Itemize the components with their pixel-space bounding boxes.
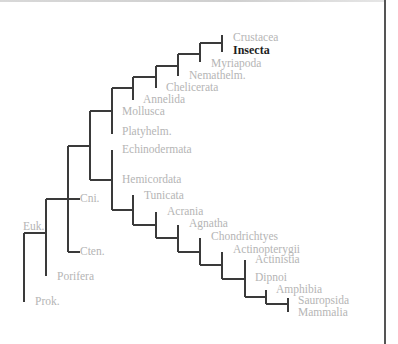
phylogenetic-tree: CrustaceaInsectaMyriapodaNemathelm.Cheli… [0,0,398,344]
taxon-label-acrania: Acrania [167,205,203,217]
taxon-label-platyhelm: Platyhelm. [122,125,172,138]
taxon-label-echinodermata: Echinodermata [122,143,192,155]
taxon-label-hemicordata: Hemicordata [122,173,181,185]
taxon-label-crustacea: Crustacea [233,31,278,43]
taxon-label-actinistia: Actinistia [255,253,300,265]
taxon-label-nemathelm: Nemathelm. [189,69,246,81]
taxon-label-tunicata: Tunicata [144,189,184,201]
phylogenetic-tree-figure: CrustaceaInsectaMyriapodaNemathelm.Cheli… [0,0,398,344]
taxon-label-chondrichtyes: Chondrichtyes [211,230,279,243]
taxon-label-porifera: Porifera [57,270,94,282]
taxon-label-chelicerata: Chelicerata [166,81,218,93]
taxon-label-insecta: Insecta [233,43,270,57]
taxon-label-annelida: Annelida [143,93,185,105]
taxon-label-mammalia: Mammalia [298,306,348,318]
taxon-label-euk: Euk. [23,220,45,232]
taxon-label-mollusca: Mollusca [122,105,165,117]
taxon-label-cni: Cni. [80,192,100,204]
taxon-label-cten: Cten. [80,245,105,257]
taxon-labels: CrustaceaInsectaMyriapodaNemathelm.Cheli… [23,31,349,318]
taxon-label-prok: Prok. [35,295,60,307]
taxon-label-agnatha: Agnatha [189,217,228,230]
